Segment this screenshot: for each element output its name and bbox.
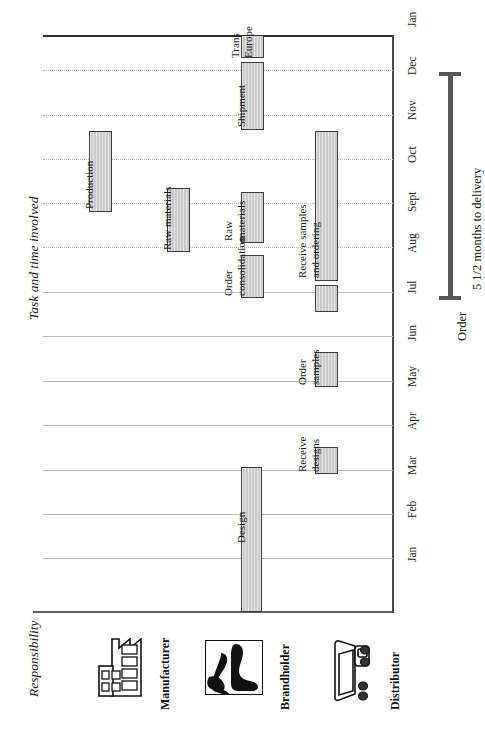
month-tick-nov: Nov: [406, 100, 418, 120]
axis-line-bottom: [33, 611, 393, 613]
month-tick-may: May: [406, 366, 418, 387]
delivery-bracket-cap-bottom: [439, 296, 461, 300]
gridline: [43, 70, 393, 71]
delivery-bracket-cap-top: [439, 72, 461, 76]
bar-label-trans-europe: Trans Europe: [229, 26, 254, 58]
bar-label-raw-materials-brandholder: Raw materials: [222, 201, 247, 241]
axis-line-top: [43, 35, 393, 37]
month-tick-jan: Jan: [406, 547, 418, 562]
month-tick-oct: Oct: [406, 146, 418, 163]
bar-label-production: Production: [83, 161, 96, 209]
gridline: [43, 381, 393, 382]
bar-label-order-samples: Order samples: [296, 350, 321, 385]
bar-label-shipment: Shipment: [235, 85, 248, 127]
axis-title-responsibility: Responsibility: [26, 621, 42, 698]
bar-label-receive-samples-and-ordering: Receive samples and ordering: [296, 204, 321, 278]
month-tick-aug: Aug: [406, 233, 418, 253]
bar-label-receive-designs: Receive designs: [296, 437, 321, 472]
month-tick-jul: Jul: [406, 281, 418, 294]
bar-label-design: Design: [235, 512, 248, 543]
month-tick-dec: Dec: [406, 56, 418, 75]
legend-label-brandholder: Brandholder: [278, 644, 293, 710]
shoe-icon: [205, 640, 263, 695]
gridline: [43, 514, 393, 515]
factory-icon: [98, 638, 142, 700]
delivery-bracket-stem: [448, 74, 453, 299]
gridline: [43, 470, 393, 471]
month-tick-jan-next: Jan: [406, 12, 418, 27]
month-tick-apr: Apr: [406, 412, 418, 430]
bar-label-raw-materials-manufacturer: Raw materials: [161, 187, 174, 250]
month-tick-jun: Jun: [406, 325, 418, 341]
legend-label-manufacturer: Manufacturer: [158, 638, 173, 710]
month-tick-sept: Sept: [406, 192, 418, 212]
month-tick-feb: Feb: [406, 501, 418, 518]
axis-title-tasks: Task and time involved: [26, 196, 42, 320]
truck-icon: [325, 638, 373, 702]
gridline: [43, 336, 393, 337]
order-annotation: Order: [455, 312, 470, 341]
gridline: [43, 425, 393, 426]
gridline: [43, 558, 393, 559]
gridline: [43, 247, 393, 248]
duration-annotation: 5 1/2 months to delivery: [470, 168, 485, 290]
bar-label-order-consolidation: Order consolidation: [222, 237, 247, 296]
legend-label-distributor: Distributor: [388, 652, 403, 710]
month-tick-mar: Mar: [406, 456, 418, 475]
gridline: [43, 115, 393, 116]
axis-baseline: [392, 35, 394, 613]
gridline: [43, 292, 393, 293]
bar-distributor-ordering-gap[interactable]: [315, 285, 338, 312]
